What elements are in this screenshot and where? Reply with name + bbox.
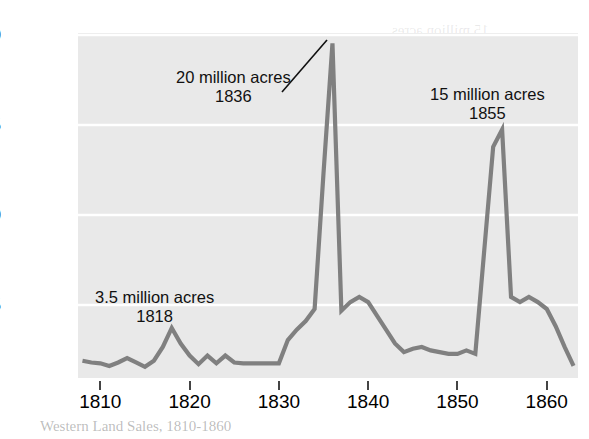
x-tick-mark-1860 xyxy=(546,381,548,390)
chart-page: 15 million acres 1855 Acres (mill 20 mil… xyxy=(0,0,589,439)
page-caption-bleed: Western Land Sales, 1810-1860 xyxy=(40,418,231,435)
x-tick-mark-1840 xyxy=(367,381,369,390)
x-tick-mark-1820 xyxy=(189,381,191,390)
x-tick-mark-1810 xyxy=(99,381,101,390)
annotation-1818: 3.5 million acres 1818 xyxy=(95,288,214,327)
x-tick-mark-1850 xyxy=(456,381,458,390)
annotation-1836: 20 million acres 1836 xyxy=(176,68,291,107)
x-tick-label-1820: 1820 xyxy=(150,392,230,411)
x-tick-label-1810: 1810 xyxy=(60,392,140,411)
annotation-1836-year: 1836 xyxy=(176,87,291,106)
x-tick-label-1850: 1850 xyxy=(417,392,497,411)
x-tick-label-1840: 1840 xyxy=(328,392,408,411)
annotation-1855-year: 1855 xyxy=(430,104,545,123)
annotation-1818-year: 1818 xyxy=(95,307,214,326)
annotation-leader-overlay xyxy=(0,0,589,439)
annotation-1855-label: 15 million acres xyxy=(430,85,545,103)
x-tick-mark-1830 xyxy=(278,381,280,390)
x-tick-label-1860: 1860 xyxy=(507,392,587,411)
annotation-1855: 15 million acres 1855 xyxy=(430,85,545,124)
annotation-1818-label: 3.5 million acres xyxy=(95,288,214,306)
annotation-1836-label: 20 million acres xyxy=(176,68,291,86)
x-tick-label-1830: 1830 xyxy=(239,392,319,411)
